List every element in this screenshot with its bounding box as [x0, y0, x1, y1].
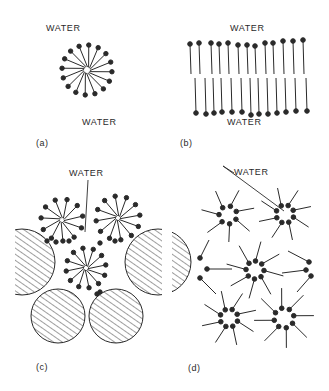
polar-head — [220, 205, 225, 210]
polar-head — [234, 209, 239, 214]
polar-head — [95, 207, 99, 211]
polar-head — [188, 42, 193, 47]
polar-head — [81, 246, 85, 250]
polar-head — [235, 312, 240, 317]
polar-head — [71, 250, 75, 254]
polar-head — [218, 313, 223, 318]
polar-head — [287, 307, 292, 312]
polar-head — [197, 41, 202, 46]
water-pointer — [85, 180, 88, 232]
polar-head — [80, 214, 84, 218]
polar-head — [68, 278, 72, 282]
polar-head — [99, 253, 103, 257]
polar-head — [275, 111, 280, 116]
polar-head — [113, 194, 117, 198]
polar-head — [65, 197, 69, 201]
hatched-particle — [89, 289, 143, 343]
polar-head — [304, 268, 309, 273]
polar-head — [79, 226, 83, 230]
polar-head — [204, 112, 209, 117]
polar-head — [220, 219, 225, 224]
polar-head — [223, 308, 228, 313]
polar-head — [68, 49, 72, 53]
hatched-particle — [125, 229, 191, 295]
polar-head — [136, 224, 140, 228]
polar-head — [83, 93, 87, 97]
polar-head — [53, 198, 57, 202]
polar-head — [224, 324, 229, 329]
polar-head — [257, 112, 262, 117]
water-label-c: WATER — [69, 168, 104, 178]
polar-head — [294, 109, 299, 114]
polar-head — [305, 109, 310, 114]
polar-head — [77, 44, 81, 48]
polar-head — [259, 262, 264, 267]
caption-b: (b) — [180, 138, 193, 148]
polar-head — [49, 236, 53, 240]
polar-head — [259, 274, 264, 279]
polar-head — [273, 310, 278, 315]
polar-head — [98, 229, 102, 233]
polar-head — [280, 220, 285, 225]
panel-b-bilayer — [188, 38, 310, 118]
polar-head — [290, 321, 295, 326]
polar-head — [284, 325, 289, 330]
polar-head — [205, 267, 210, 272]
polar-head — [272, 318, 277, 323]
polar-head — [41, 227, 45, 231]
polar-head — [104, 263, 108, 267]
polar-head — [263, 41, 268, 46]
polar-head — [235, 319, 240, 324]
polar-head — [133, 202, 137, 206]
polar-head — [252, 277, 257, 282]
panel-c-packing — [0, 180, 191, 343]
polar-head — [230, 307, 235, 312]
polar-head — [119, 238, 123, 242]
polar-head — [262, 268, 267, 273]
polar-head — [102, 198, 106, 202]
polar-head — [107, 79, 111, 83]
polar-head — [91, 247, 95, 251]
polar-head — [77, 284, 81, 288]
polar-head — [286, 203, 291, 208]
polar-head — [109, 60, 113, 64]
water-label-a-top: WATER — [46, 23, 81, 33]
polar-head — [219, 319, 224, 324]
polar-head — [87, 286, 91, 290]
hatched-particle — [31, 289, 85, 343]
caption-a: (a) — [36, 138, 49, 148]
polar-head — [281, 39, 286, 44]
polar-head — [72, 235, 76, 239]
polar-head — [61, 76, 65, 80]
polar-head — [60, 66, 64, 70]
polar-head — [61, 239, 65, 243]
polar-head — [244, 267, 249, 272]
polar-head — [102, 273, 106, 277]
polar-head — [266, 112, 271, 117]
polar-head — [212, 111, 217, 116]
polar-head — [276, 324, 281, 329]
polar-head — [198, 256, 203, 261]
water-label-b-bottom: WATER — [227, 117, 262, 127]
polar-head — [93, 92, 97, 96]
amphiphile-aggregates-figure — [0, 0, 329, 391]
water-label-b-top: WATER — [230, 23, 265, 33]
polar-head — [301, 38, 306, 43]
polar-head — [66, 84, 70, 88]
polar-head — [227, 222, 232, 227]
polar-head — [253, 44, 258, 49]
polar-head — [75, 203, 79, 207]
polar-head — [62, 57, 66, 61]
polar-head — [309, 274, 314, 279]
polar-head — [65, 259, 69, 263]
polar-head — [228, 204, 233, 209]
polar-head — [138, 213, 142, 217]
polar-head — [275, 215, 280, 220]
polar-head — [96, 45, 100, 49]
polar-head — [234, 217, 239, 222]
polar-head — [230, 324, 235, 329]
polar-head — [245, 43, 250, 48]
polar-head — [104, 51, 108, 55]
polar-head — [271, 41, 276, 46]
polar-head — [291, 313, 296, 318]
